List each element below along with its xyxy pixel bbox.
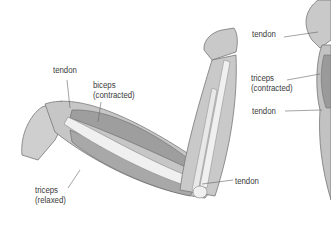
label-right-triceps: triceps (contracted) [251,73,293,93]
left-arm-illustration [22,28,238,198]
arm-muscle-diagram [0,0,331,251]
label-left-biceps: biceps (contracted) [93,80,135,100]
left-fist [204,28,237,60]
label-text: (contracted) [251,83,293,93]
label-left-tendon-top: tendon [53,65,77,75]
label-text: tendon [252,29,276,39]
label-right-tendon-bottom: tendon [252,106,276,116]
label-text: triceps [251,73,293,83]
label-left-triceps: triceps (relaxed) [35,185,66,205]
left-elbow-joint [193,186,207,198]
label-left-tendon-elbow: tendon [235,176,259,186]
label-text: biceps [93,80,135,90]
label-right-tendon-top: tendon [252,29,276,39]
label-text: tendon [235,176,259,186]
label-text: tendon [252,106,276,116]
label-text: triceps [35,185,66,195]
label-text: tendon [53,65,77,75]
label-text: (contracted) [93,90,135,100]
right-shoulder [306,0,331,48]
right-arm-illustration [284,0,331,200]
label-text: (relaxed) [35,195,66,205]
